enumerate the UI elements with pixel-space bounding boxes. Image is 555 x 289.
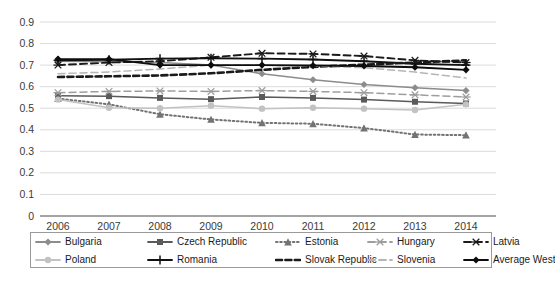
y-axis-tick-label: 0.3 xyxy=(19,145,34,157)
data-point-marker xyxy=(156,256,165,265)
legend-item-label: Romania xyxy=(177,255,217,265)
x-axis-tick-label: 2011 xyxy=(302,220,325,232)
data-point-marker xyxy=(309,62,316,69)
legend-item-romania[interactable]: Romania xyxy=(147,254,275,266)
data-point-marker xyxy=(410,92,419,99)
data-point-marker xyxy=(157,95,163,101)
legend-item-slovak-republic[interactable]: Slovak Republic xyxy=(275,254,367,266)
legend-swatch-bulgaria xyxy=(35,236,61,248)
data-point-marker xyxy=(412,107,418,113)
legend-swatch-estonia xyxy=(275,236,301,248)
x-axis-tick-label: 2013 xyxy=(403,220,427,232)
data-point-marker xyxy=(361,105,367,111)
data-point-marker xyxy=(472,256,479,263)
data-point-marker xyxy=(258,62,265,69)
data-point-marker xyxy=(55,96,61,102)
legend-swatch-czech-republic xyxy=(147,236,173,248)
y-axis-tick-label: 0.5 xyxy=(19,102,34,114)
y-axis-tick-label: 0.2 xyxy=(19,166,34,178)
data-point-marker xyxy=(155,88,164,95)
data-point-marker xyxy=(375,239,384,246)
legend-item-label: Slovenia xyxy=(397,255,435,265)
data-point-marker xyxy=(309,76,316,83)
data-point-marker xyxy=(106,105,112,111)
legend-item-label: Bulgaria xyxy=(65,237,102,247)
legend-item-label: Average West xyxy=(493,255,555,265)
data-point-marker xyxy=(412,99,418,105)
data-point-marker xyxy=(471,239,480,246)
data-point-marker xyxy=(359,89,368,96)
legend-swatch-average-west xyxy=(463,254,489,266)
data-point-marker xyxy=(308,88,317,95)
y-axis-tick-label: 0.4 xyxy=(19,123,34,135)
data-point-marker xyxy=(44,238,51,245)
chart-plot-area: 00.10.20.30.40.50.60.70.80.9200620072008… xyxy=(0,0,502,232)
data-point-marker xyxy=(206,88,215,95)
legend-item-label: Slovak Republic xyxy=(305,255,377,265)
x-axis-tick-label: 2007 xyxy=(97,220,121,232)
data-point-marker xyxy=(157,105,163,111)
legend-item-label: Hungary xyxy=(397,237,435,247)
data-point-marker xyxy=(259,105,265,111)
x-axis-tick-label: 2008 xyxy=(148,220,172,232)
series-czech-republic xyxy=(55,93,469,107)
legend-swatch-slovenia xyxy=(367,254,393,266)
x-axis-tick-label: 2012 xyxy=(352,220,376,232)
data-point-marker xyxy=(461,94,470,101)
data-point-marker xyxy=(208,96,214,102)
legend-swatch-slovak-republic xyxy=(275,254,301,266)
data-point-marker xyxy=(463,101,469,107)
legend-swatch-latvia xyxy=(463,236,489,248)
data-point-marker xyxy=(45,257,51,263)
y-axis-tick-label: 0.8 xyxy=(19,37,34,49)
data-point-marker xyxy=(259,94,265,100)
x-axis-tick-label: 2009 xyxy=(199,220,223,232)
y-axis-tick-label: 0 xyxy=(28,210,34,222)
legend-item-czech-republic[interactable]: Czech Republic xyxy=(147,236,275,248)
legend-item-latvia[interactable]: Latvia xyxy=(463,236,555,248)
data-point-marker xyxy=(411,84,418,91)
y-axis-tick-label: 0.7 xyxy=(19,59,34,71)
data-point-marker xyxy=(157,239,163,245)
y-axis-tick-label: 0.6 xyxy=(19,80,34,92)
legend-item-label: Poland xyxy=(65,255,96,265)
y-axis-tick-label: 0.9 xyxy=(19,16,34,28)
legend-swatch-poland xyxy=(35,254,61,266)
x-axis-tick-label: 2014 xyxy=(454,220,478,232)
legend-item-bulgaria[interactable]: Bulgaria xyxy=(35,236,147,248)
legend-swatch-hungary xyxy=(367,236,393,248)
legend-item-label: Czech Republic xyxy=(177,237,247,247)
legend-item-label: Estonia xyxy=(305,237,338,247)
y-axis-tick-label: 0.1 xyxy=(19,188,34,200)
data-point-marker xyxy=(257,87,266,94)
x-axis-tick-label: 2010 xyxy=(250,220,274,232)
data-point-marker xyxy=(462,87,469,94)
data-point-marker xyxy=(310,105,316,111)
data-point-marker xyxy=(361,97,367,103)
x-axis-tick-label: 2006 xyxy=(46,220,70,232)
legend-item-poland[interactable]: Poland xyxy=(35,254,147,266)
legend-item-label: Latvia xyxy=(493,237,520,247)
data-point-marker xyxy=(310,95,316,101)
legend-swatch-romania xyxy=(147,254,173,266)
legend-item-slovenia[interactable]: Slovenia xyxy=(367,254,463,266)
data-point-marker xyxy=(207,62,214,69)
legend-item-estonia[interactable]: Estonia xyxy=(275,236,367,248)
data-point-marker xyxy=(208,102,214,108)
chart-legend: BulgariaCzech RepublicEstoniaHungaryLatv… xyxy=(30,232,492,268)
legend-item-hungary[interactable]: Hungary xyxy=(367,236,463,248)
legend-item-average-west[interactable]: Average West xyxy=(463,254,555,266)
data-point-marker xyxy=(462,66,469,73)
